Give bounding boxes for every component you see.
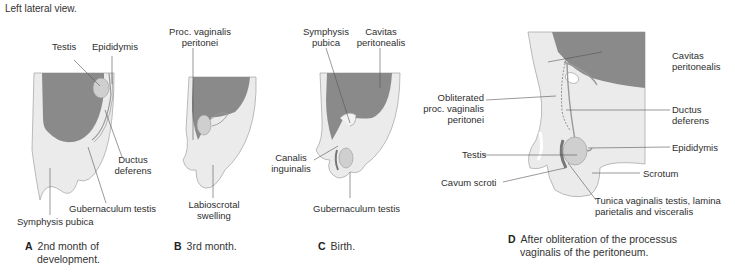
- label-a-gubernaculum: Gubernaculum testis: [69, 203, 156, 214]
- caption-c: CBirth.: [318, 240, 355, 253]
- label-a-epididymis: Epididymis: [92, 41, 138, 52]
- label-d-testis: Testis: [462, 149, 486, 160]
- caption-d: DAfter obliteration of the processus vag…: [508, 233, 677, 259]
- label-d-scrotum: Scrotum: [643, 168, 678, 179]
- label-d-tunica-vaginalis: Tunica vaginalis testis, lamina parietal…: [595, 195, 721, 217]
- label-c-symphysis: Symphysis pubica: [300, 26, 352, 48]
- label-d-obliterated-proc-vaginalis: Obliterated proc. vaginalis peritonei: [410, 92, 484, 125]
- panel-b-drawing: [183, 48, 256, 198]
- panel-a-drawing: [32, 56, 122, 215]
- label-d-ductus-deferens: Ductus deferens: [672, 104, 709, 126]
- caption-a: A2nd month of development.: [25, 240, 100, 266]
- label-c-cavitas: Cavitas peritonealis: [352, 26, 410, 48]
- caption-b: B3rd month.: [174, 240, 237, 253]
- label-a-testis: Testis: [52, 41, 76, 52]
- label-d-cavitas: Cavitas peritonealis: [672, 50, 721, 72]
- label-b-proc-vaginalis: Proc. vaginalis peritonei: [160, 26, 240, 48]
- label-b-labioscrotal-swelling: Labioscrotal swelling: [183, 199, 245, 221]
- label-d-cavum-scroti: Cavum scroti: [441, 177, 496, 188]
- label-d-epididymis: Epididymis: [672, 142, 718, 153]
- label-c-gubernaculum: Gubernaculum testis: [313, 203, 400, 214]
- panel-d-drawing: [483, 32, 670, 200]
- label-a-ductus-deferens: Ductus deferens: [108, 154, 158, 176]
- label-c-canalis-inguinalis: Canalis inguinalis: [268, 152, 314, 174]
- label-a-symphysis: Symphysis pubica: [17, 216, 94, 227]
- panel-c-drawing: [314, 48, 400, 198]
